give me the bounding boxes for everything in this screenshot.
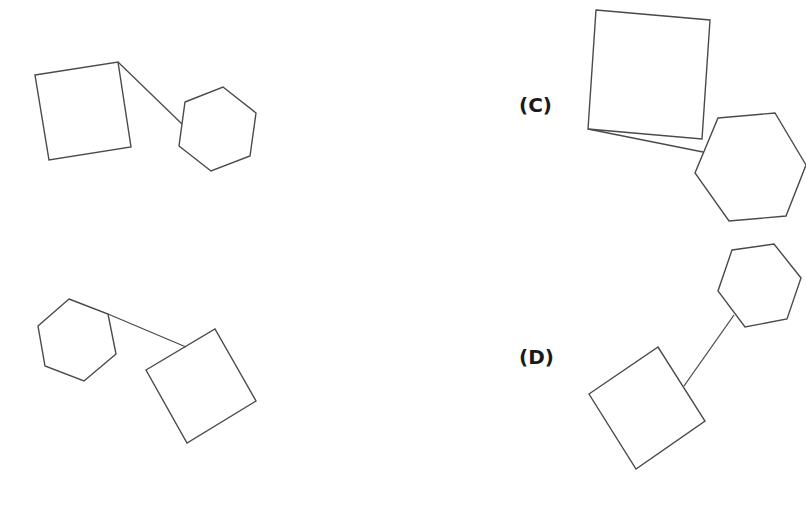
panel-b-connector — [108, 314, 186, 347]
panel-d-connector — [684, 315, 734, 386]
panel-b: ) — [0, 299, 256, 443]
panel-a-square — [35, 62, 131, 160]
panel-a-hexagon — [179, 87, 256, 171]
panel-d-square — [589, 347, 705, 469]
panel-a-label: ) — [0, 91, 1, 115]
panel-c-hexagon — [695, 113, 806, 221]
panel-c-connector — [588, 129, 703, 152]
panel-a-connector — [118, 62, 182, 124]
figure-canvas: ) ) (C) (D) — [0, 0, 806, 531]
panel-b-label: ) — [0, 344, 1, 368]
panel-d-label: (D) — [519, 345, 554, 369]
panel-d-hexagon — [718, 244, 801, 327]
panel-b-square — [146, 329, 256, 443]
panel-c-square — [588, 10, 710, 139]
panel-c-label: (C) — [519, 93, 552, 117]
panel-b-hexagon — [38, 299, 116, 381]
panel-c: (C) — [519, 10, 806, 221]
panel-d: (D) — [519, 244, 801, 469]
panel-a: ) — [0, 62, 256, 171]
